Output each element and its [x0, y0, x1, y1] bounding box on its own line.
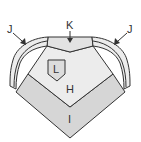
- parts-diagram: K J J L H I: [0, 0, 141, 142]
- label-k: K: [66, 19, 74, 31]
- label-j-right: J: [127, 23, 133, 35]
- label-i: I: [68, 113, 71, 125]
- label-j-left: J: [7, 23, 13, 35]
- label-h: H: [66, 83, 74, 95]
- arrow-j-right-head: [114, 38, 120, 45]
- arrow-j-left-line: [13, 33, 22, 41]
- arrow-j-left-head: [20, 38, 26, 45]
- label-l: L: [53, 63, 59, 75]
- arrow-j-right-line: [118, 33, 127, 41]
